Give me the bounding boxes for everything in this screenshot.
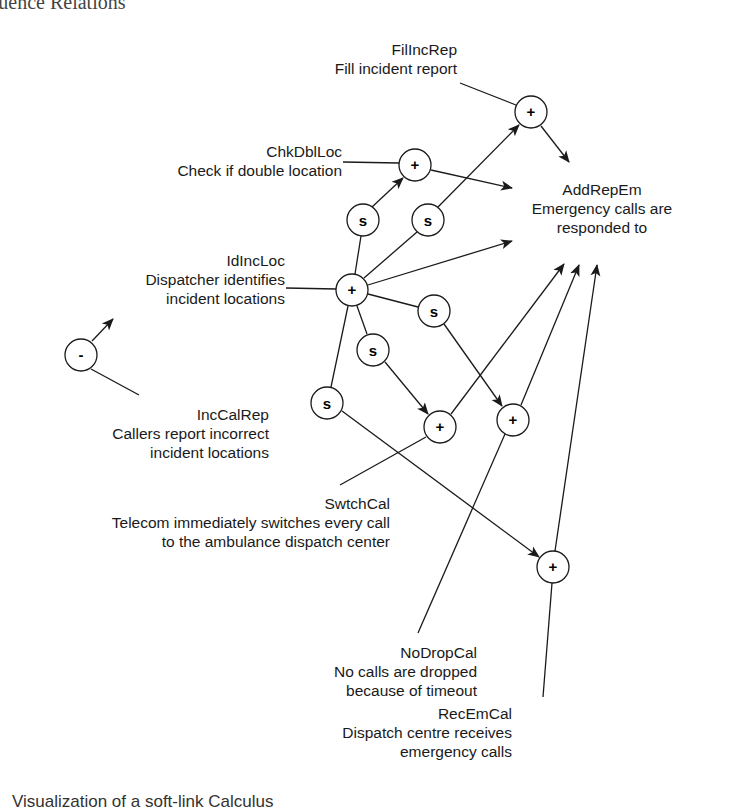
node-neg-minus: -: [65, 339, 97, 371]
node-sw-plus: +: [424, 411, 456, 443]
svg-text:s: s: [359, 212, 367, 229]
edge-s1-to-chk-plus: [372, 178, 403, 207]
node-nd-plus: +: [497, 404, 529, 436]
goal-desc-line2: responded to: [516, 218, 688, 237]
goal-chkdblloc: ChkDblLoc Check if double location: [177, 142, 342, 180]
goal-desc: Fill incident report: [335, 59, 457, 78]
goal-inccalrep: IncCalRep Callers report incorrect incid…: [112, 405, 269, 462]
node-soft-1: s: [347, 204, 379, 236]
edge-sw-plus-to-addrepem: [451, 264, 564, 414]
edge-id-to-s3: [368, 294, 418, 307]
edge-inccalrep-to-minus: [91, 369, 139, 395]
edge-recemcal-to-plus: [543, 583, 552, 697]
goal-code: RecEmCal: [342, 704, 512, 723]
svg-text:s: s: [430, 303, 438, 320]
goal-nodropcal: NoDropCal No calls are dropped because o…: [334, 643, 477, 700]
goal-desc-line2: emergency calls: [342, 742, 512, 761]
edge-s4-to-sw-plus: [385, 362, 428, 414]
edge-id-to-s2: [364, 232, 417, 278]
node-chk-plus: +: [399, 149, 431, 181]
edge-idincloc-to-plus: [286, 288, 336, 289]
svg-text:+: +: [348, 281, 357, 298]
svg-text:+: +: [549, 558, 558, 575]
goal-desc-line1: Dispatch centre receives: [342, 723, 512, 742]
goal-addrepem: AddRepEm Emergency calls are responded t…: [516, 180, 688, 237]
edge-s2-to-fil-plus: [438, 125, 519, 207]
goal-desc-line1: Emergency calls are: [516, 199, 688, 218]
svg-text:s: s: [424, 212, 432, 229]
goal-code: IdIncLoc: [145, 251, 285, 270]
goal-code: SwtchCal: [112, 494, 390, 513]
figure-caption: Visualization of a soft-link Calculus: [12, 792, 273, 811]
goal-idincloc: IdIncLoc Dispatcher identifies incident …: [145, 251, 285, 308]
goal-swtchcal: SwtchCal Telecom immediately switches ev…: [112, 494, 390, 551]
goal-desc-line1: Callers report incorrect: [112, 424, 269, 443]
svg-text:+: +: [509, 411, 518, 428]
node-soft-5: s: [311, 387, 343, 419]
goal-desc-line1: Dispatcher identifies: [145, 270, 285, 289]
node-soft-3: s: [418, 295, 450, 327]
goal-code: NoDropCal: [334, 643, 477, 662]
node-rec-plus: +: [537, 551, 569, 583]
goal-code: FilIncRep: [335, 40, 457, 59]
node-soft-4: s: [357, 334, 389, 366]
svg-text:+: +: [436, 418, 445, 435]
edge-nodropcal-to-plus: [418, 434, 505, 633]
edge-nd-plus-to-addrepem: [521, 265, 579, 405]
edge-id-to-s4: [357, 306, 367, 334]
goal-desc-line1: Telecom immediately switches every call: [112, 513, 390, 532]
edge-id-to-s1: [355, 236, 361, 274]
svg-text:s: s: [323, 395, 331, 412]
edge-minus-to-idincloc: [92, 319, 113, 341]
edge-chkdblloc-to-plus: [343, 162, 399, 163]
node-id-plus: +: [336, 274, 368, 306]
edge-id-to-s5: [331, 306, 348, 387]
svg-text:-: -: [79, 346, 84, 363]
goal-desc-line2: incident locations: [145, 289, 285, 308]
svg-text:+: +: [527, 103, 536, 120]
edge-s3-to-nd-plus: [444, 324, 502, 406]
goal-recemcal: RecEmCal Dispatch centre receives emerge…: [342, 704, 512, 761]
edge-fil-plus-to-addrepem: [541, 126, 569, 162]
edge-id-to-addrepem: [368, 241, 512, 285]
node-fil-plus: +: [515, 96, 547, 128]
goal-code: ChkDblLoc: [177, 142, 342, 161]
goal-code: IncCalRep: [112, 405, 269, 424]
goal-filincrep: FilIncRep Fill incident report: [335, 40, 457, 78]
node-soft-2: s: [412, 204, 444, 236]
goal-desc: Check if double location: [177, 161, 342, 180]
goal-desc-line2: to the ambulance dispatch center: [112, 532, 390, 551]
goal-code: AddRepEm: [516, 180, 688, 199]
goal-desc-line2: incident locations: [112, 443, 269, 462]
goal-desc-line2: because of timeout: [334, 681, 477, 700]
goal-desc-line1: No calls are dropped: [334, 662, 477, 681]
svg-text:+: +: [411, 156, 420, 173]
edge-filincrep-to-plus: [460, 83, 516, 105]
edge-swtchcal-to-plus: [340, 437, 426, 485]
svg-text:s: s: [369, 342, 377, 359]
